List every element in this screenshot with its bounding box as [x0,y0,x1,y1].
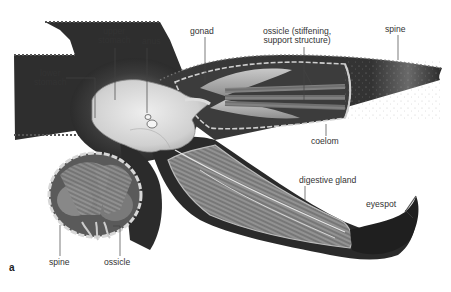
label-ossicle-bottom: ossicle [104,258,130,267]
sea-star-illustration [0,0,451,292]
label-upper-stomach-line2: stomach [98,36,130,45]
label-upper-stomach: upper stomach [98,27,130,46]
sea-star-diagram: upper stomach anus gonad ossicle (stiffe… [0,0,451,292]
label-eyespot: eyespot [366,200,396,209]
label-digestive-gland: digestive gland [299,176,356,185]
label-anus: anus [142,37,161,46]
label-ossicle-top: ossicle (stiffening, support structure) [263,27,331,46]
panel-label: a [9,262,15,273]
label-spine-top: spine [385,25,406,34]
label-spine-bottom: spine [49,258,70,267]
label-gonad: gonad [190,27,214,36]
label-coelom: coelom [311,137,339,146]
label-ossicle-top-line2: support structure) [263,36,331,45]
label-lower-stomach-line2: stomach [34,78,66,87]
label-lower-stomach: lower stomach [34,69,66,88]
right-arm [160,55,442,140]
